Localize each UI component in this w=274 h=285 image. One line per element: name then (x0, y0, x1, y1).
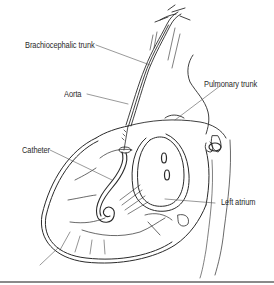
aortic-vessel-drawing (126, 5, 190, 126)
label-brachiocephalic-trunk: Brachiocephalic trunk (25, 40, 95, 50)
left-atrium-drawing (132, 134, 189, 211)
catheter-drawing (96, 126, 131, 222)
label-catheter: Catheter (22, 145, 50, 155)
leader-bottom (40, 248, 58, 265)
heart-catheter-diagram: Brachiocephalic trunk Aorta Pulmonary tr… (0, 0, 274, 285)
label-pulmonary-trunk: Pulmonary trunk (204, 79, 257, 89)
label-left-atrium: Left atrium (221, 197, 255, 207)
label-aorta: Aorta (64, 89, 81, 99)
great-vessels-drawing (128, 55, 226, 152)
leader-pulmonary (175, 86, 220, 120)
ventricle-drawing (60, 149, 189, 254)
leader-aorta (87, 94, 128, 104)
leader-brachiocephalic (96, 45, 150, 65)
leader-lines (40, 45, 220, 265)
leader-catheter (50, 150, 112, 180)
bottom-divider (0, 281, 274, 283)
